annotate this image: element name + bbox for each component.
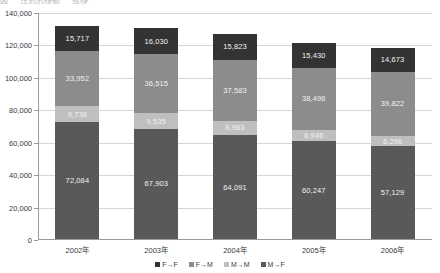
bar-segment-value-label: 9,738 — [68, 110, 87, 119]
bar-segment[interactable]: 6,946 — [292, 130, 336, 141]
y-axis-tick-label: 80,000 — [9, 106, 32, 115]
bar-segment[interactable]: 15,823 — [213, 34, 257, 60]
plot-area: 140,000120,000100,00080,00060,00040,0002… — [38, 13, 432, 240]
legend-label: M→F — [268, 261, 285, 268]
bar-segment-value-label: 16,030 — [144, 37, 168, 46]
legend-item[interactable]: M→F — [261, 261, 285, 268]
bar-segment[interactable]: 15,430 — [292, 43, 336, 68]
bar-segment-value-label: 36,515 — [144, 79, 168, 88]
y-axis-tick-label: 140,000 — [5, 9, 32, 18]
bar-segment-value-label: 39,822 — [381, 99, 405, 108]
x-axis-tick-label: 2006年 — [371, 244, 415, 255]
stacked-bar-chart: 図 性別別移動 推移 140,000120,000100,00080,00060… — [0, 0, 440, 273]
legend-label: M→M — [231, 261, 250, 268]
bar-segment[interactable]: 60,247 — [292, 141, 336, 239]
bar-segment-value-label: 8,983 — [225, 123, 244, 132]
y-axis-tick-mark — [34, 240, 38, 241]
bar-segment[interactable]: 33,952 — [55, 51, 99, 106]
bar-segment-value-label: 15,823 — [223, 42, 247, 51]
bar-segment[interactable]: 9,535 — [134, 113, 178, 128]
bar-segment-value-label: 64,091 — [223, 183, 247, 192]
bar-segment[interactable]: 14,673 — [371, 48, 415, 72]
bar-segment[interactable]: 6,296 — [371, 136, 415, 146]
bar-segment-value-label: 37,583 — [223, 86, 247, 95]
bar-segment[interactable]: 72,084 — [55, 122, 99, 239]
bar-segment[interactable]: 37,583 — [213, 60, 257, 121]
bar-segment[interactable]: 57,129 — [371, 146, 415, 239]
legend-label: F→M — [196, 261, 213, 268]
cropped-header-fragment-3: 推移 — [72, 0, 88, 5]
bar-segment-value-label: 6,296 — [383, 137, 402, 146]
y-axis-tick-label: 120,000 — [5, 41, 32, 50]
x-axis-tick-label: 2005年 — [292, 244, 336, 255]
bar-group[interactable]: 64,0918,98337,58315,8232004年 — [213, 34, 257, 239]
legend-item[interactable]: F→F — [155, 261, 178, 268]
bars-layer: 72,0849,73833,95215,7172002年67,9039,5353… — [38, 13, 432, 240]
legend-item[interactable]: M→M — [224, 261, 250, 268]
legend-swatch-icon — [189, 262, 194, 267]
y-axis-tick-label: 100,000 — [5, 73, 32, 82]
bar-group[interactable]: 57,1296,29639,82214,6732006年 — [371, 48, 415, 239]
y-axis-tick-label: 20,000 — [9, 203, 32, 212]
bar-segment[interactable]: 8,983 — [213, 121, 257, 136]
bar-segment-value-label: 6,946 — [304, 131, 323, 140]
bar-segment-value-label: 15,430 — [302, 51, 326, 60]
cropped-header-fragment-1: 図 — [0, 0, 8, 5]
bar-group[interactable]: 72,0849,73833,95215,7172002年 — [55, 26, 99, 239]
legend-swatch-icon — [155, 262, 160, 267]
y-axis-tick-label: 0 — [28, 236, 32, 245]
bar-segment-value-label: 72,084 — [66, 176, 90, 185]
y-axis-tick-label: 40,000 — [9, 171, 32, 180]
x-axis-tick-label: 2003年 — [134, 244, 178, 255]
bar-segment[interactable]: 64,091 — [213, 135, 257, 239]
bar-segment[interactable]: 39,822 — [371, 72, 415, 137]
legend-swatch-icon — [261, 262, 266, 267]
bar-segment-value-label: 9,535 — [147, 117, 166, 126]
cropped-header-text: 図 性別別移動 推移 — [0, 0, 440, 9]
bar-segment[interactable]: 38,496 — [292, 68, 336, 130]
legend-swatch-icon — [224, 262, 229, 267]
bar-segment[interactable]: 36,515 — [134, 54, 178, 113]
y-axis-tick-label: 60,000 — [9, 138, 32, 147]
bar-group[interactable]: 67,9039,53536,51516,0302003年 — [134, 28, 178, 239]
cropped-header-fragment-2: 性別別移動 — [20, 0, 60, 5]
x-axis-tick-label: 2004年 — [213, 244, 257, 255]
bar-segment-value-label: 14,673 — [381, 55, 405, 64]
bar-group[interactable]: 60,2476,94638,49615,4302005年 — [292, 43, 336, 239]
x-axis-tick-label: 2002年 — [55, 244, 99, 255]
bar-segment-value-label: 33,952 — [66, 74, 90, 83]
bar-segment[interactable]: 67,903 — [134, 129, 178, 239]
bar-segment-value-label: 67,903 — [144, 179, 168, 188]
legend-label: F→F — [162, 261, 178, 268]
bar-segment-value-label: 60,247 — [302, 186, 326, 195]
bar-segment[interactable]: 15,717 — [55, 26, 99, 51]
bar-segment-value-label: 57,129 — [381, 188, 405, 197]
legend-item[interactable]: F→M — [189, 261, 213, 268]
bar-segment[interactable]: 9,738 — [55, 106, 99, 122]
bar-segment-value-label: 38,496 — [302, 94, 326, 103]
chart-legend: F→FF→MM→MM→F — [0, 261, 440, 268]
bar-segment-value-label: 15,717 — [66, 34, 90, 43]
bar-segment[interactable]: 16,030 — [134, 28, 178, 54]
